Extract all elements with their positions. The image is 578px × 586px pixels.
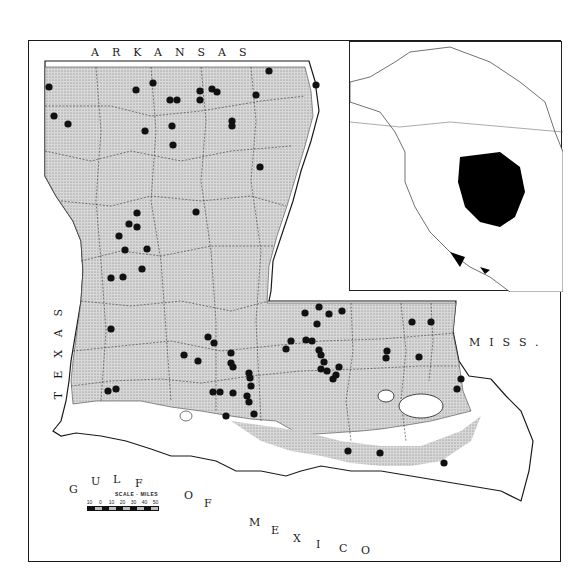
record-point xyxy=(415,353,422,360)
record-point xyxy=(132,86,139,93)
record-point xyxy=(332,371,339,378)
record-point xyxy=(408,318,415,325)
label-miss: MISS. xyxy=(469,336,548,349)
record-point xyxy=(325,310,332,317)
record-point xyxy=(204,333,211,340)
record-point xyxy=(252,91,259,98)
inset-map xyxy=(350,42,563,292)
record-point xyxy=(209,388,216,395)
record-point xyxy=(245,398,252,405)
record-point xyxy=(125,220,132,227)
record-point xyxy=(229,363,236,370)
scale-ticks: 1001020304050 xyxy=(84,499,161,505)
record-point xyxy=(133,223,140,230)
record-point xyxy=(338,307,345,314)
record-point xyxy=(196,96,203,103)
record-point xyxy=(45,83,52,90)
record-point xyxy=(382,354,389,361)
record-point xyxy=(344,447,351,454)
record-point xyxy=(282,345,289,352)
record-point xyxy=(112,385,119,392)
record-point xyxy=(168,122,175,129)
record-point xyxy=(166,96,173,103)
record-point xyxy=(301,309,308,316)
record-point xyxy=(50,112,57,119)
record-point xyxy=(192,208,199,215)
north-america-inset xyxy=(349,41,562,291)
record-point xyxy=(308,337,315,344)
scale-bar xyxy=(87,506,159,511)
record-point xyxy=(64,120,71,127)
record-point xyxy=(104,387,111,394)
record-point xyxy=(302,336,309,343)
record-point xyxy=(227,349,234,356)
record-point xyxy=(210,339,217,346)
record-point xyxy=(119,273,126,280)
record-point xyxy=(335,363,342,370)
record-point xyxy=(247,382,254,389)
record-point xyxy=(143,245,150,252)
map-frame: ARKANSAS TEXAS MISS. G U L F O F M E X I… xyxy=(28,40,561,562)
label-texas: TEXAS xyxy=(52,296,65,399)
record-point xyxy=(265,67,272,74)
record-point xyxy=(107,274,114,281)
record-point xyxy=(427,318,434,325)
scale-title: SCALE · MILES xyxy=(115,491,158,497)
lake-maurepas xyxy=(378,390,394,402)
record-point xyxy=(216,388,223,395)
record-point xyxy=(440,459,447,466)
record-point xyxy=(246,374,253,381)
record-point xyxy=(213,88,220,95)
record-point xyxy=(180,351,187,358)
record-point xyxy=(313,320,320,327)
record-point xyxy=(173,96,180,103)
record-point xyxy=(115,232,122,239)
record-point xyxy=(228,122,235,129)
record-point xyxy=(194,357,201,364)
record-point xyxy=(138,265,145,272)
record-point xyxy=(457,375,464,382)
record-point xyxy=(141,127,148,134)
record-point xyxy=(287,337,294,344)
record-point xyxy=(250,410,257,417)
record-point xyxy=(107,325,114,332)
record-point xyxy=(315,303,322,310)
record-point xyxy=(383,347,390,354)
record-point xyxy=(320,358,327,365)
record-point xyxy=(453,385,460,392)
record-point xyxy=(323,367,330,374)
record-point xyxy=(149,79,156,86)
record-point xyxy=(376,449,383,456)
lake-calcasieu xyxy=(180,411,192,421)
record-point xyxy=(133,209,140,216)
record-point xyxy=(222,412,229,419)
record-point xyxy=(169,141,176,148)
record-point xyxy=(196,87,203,94)
label-arkansas: ARKANSAS xyxy=(91,46,260,59)
record-point xyxy=(121,246,128,253)
record-point xyxy=(317,351,324,358)
lake-pontchartrain xyxy=(399,394,443,418)
record-point xyxy=(312,81,319,88)
record-point xyxy=(229,389,236,396)
record-point xyxy=(256,163,263,170)
